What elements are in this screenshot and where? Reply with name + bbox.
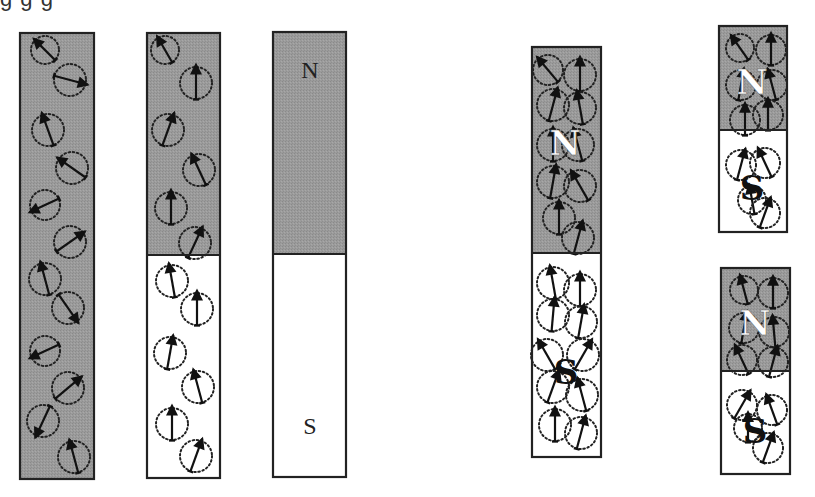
pole-label-s: S	[743, 411, 768, 451]
pole-label-n: N	[739, 303, 770, 343]
bar-1-unmagnetized	[20, 33, 94, 479]
pole-label-n: N	[736, 62, 767, 102]
bar-5-broken-top: NS	[719, 26, 787, 232]
pole-label-s: S	[554, 352, 579, 392]
pole-label-n: N	[301, 57, 318, 83]
bar-6-broken-bottom: NS	[721, 268, 790, 474]
south-region	[273, 254, 346, 477]
pole-label-n: N	[549, 123, 580, 163]
pole-label-s: S	[740, 168, 765, 208]
magnetic-domains-diagram: NSNSNSNS	[0, 0, 815, 497]
north-region	[147, 33, 220, 255]
magnetized-region	[20, 33, 94, 479]
bar-2-partially-aligned	[147, 33, 220, 478]
bar-4-aligned-magnet: NS	[531, 47, 601, 457]
bar-3-magnet: NS	[273, 32, 346, 477]
pole-label-s: S	[303, 413, 316, 439]
